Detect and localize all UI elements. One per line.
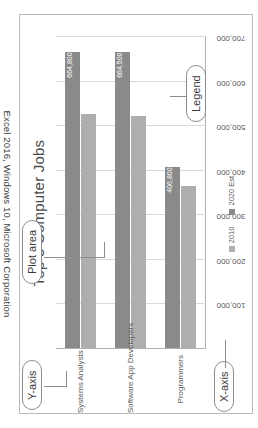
callout-y-axis: Y-axis [22,360,42,410]
bar[interactable] [165,167,180,348]
callout-y-axis-leader [44,386,66,387]
category-label: Systems Analysts [76,355,85,413]
chart-title[interactable]: Top 3 Computer Jobs [30,13,47,413]
chart-frame[interactable]: Top 3 Computer Jobs 664,800664,500406,80… [19,14,253,414]
legend-item[interactable]: 2010 [227,227,236,253]
chart-figure: Excel 2016, Windows 10, Microsoft Corpor… [0,0,258,428]
callout-plot-area-leader-2 [104,242,105,258]
callout-legend-leader [170,96,186,97]
plot-area[interactable]: 664,800664,500406,800 [56,37,206,349]
bar[interactable] [65,52,80,348]
callout-x-axis-leader [225,340,226,368]
bar[interactable] [181,186,196,348]
callout-y-axis-leader-2 [66,371,67,387]
category-label: Programmers [176,355,185,413]
legend-label: 2020 Est. [227,174,236,206]
bar[interactable] [81,114,96,348]
callout-legend: Legend [186,65,206,122]
callout-plot-area: Plot area [22,220,42,284]
bar-group: 664,800 [63,37,99,348]
bar-data-label: 406,800 [166,167,173,192]
callout-x-axis: X-axis [214,361,234,412]
legend-swatch [229,209,235,215]
bar-group: 664,500 [113,37,149,348]
category-label: Software App Developers [126,355,135,413]
bar-data-label: 664,500 [116,53,123,78]
legend-item[interactable]: 2020 Est. [227,174,236,215]
legend-swatch [229,246,235,252]
rotated-screenshot-stage: Excel 2016, Windows 10, Microsoft Corpor… [0,0,258,428]
legend-label: 2010 [227,227,236,244]
bar-data-label: 664,800 [66,52,73,77]
chart-legend[interactable]: 20102020 Est. [227,13,236,413]
bar[interactable] [115,52,130,348]
bar[interactable] [131,116,146,348]
callout-plot-area-leader [44,257,104,258]
figure-caption: Excel 2016, Windows 10, Microsoft Corpor… [2,0,13,428]
